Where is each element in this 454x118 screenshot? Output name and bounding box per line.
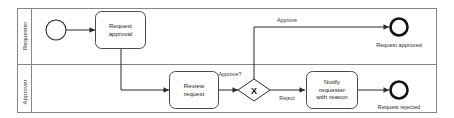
task-request-approval-label-line2: approval — [109, 30, 133, 37]
arrowhead — [300, 87, 306, 93]
pool-border — [18, 9, 437, 113]
gateway-exclusive-x-icon: X — [251, 86, 257, 96]
end-event-rejected-shape[interactable] — [391, 82, 408, 99]
end-event-approved-shape[interactable] — [391, 19, 408, 36]
bpmn-diagram: Requester Approver Approve Rejec — [0, 0, 454, 118]
end-event-rejected-label: Request rejected — [378, 104, 420, 110]
gateway-approve-label: Approve? — [218, 71, 241, 77]
flow-gateway-to-notify: Reject — [270, 87, 305, 101]
task-notify-requester-label-line2: requester — [319, 86, 345, 93]
arrowhead — [384, 24, 390, 30]
task-review-request-label-line1: Review — [184, 82, 205, 89]
flow-gateway-to-approved: Approve — [254, 17, 389, 79]
arrowhead — [384, 87, 390, 93]
flow-notify-to-rejected — [358, 87, 389, 93]
flow-request-approval-to-review-request — [121, 48, 169, 93]
gateway-approve[interactable]: X Approve? — [218, 71, 270, 101]
task-notify-requester-label-line1: Notify — [324, 78, 341, 85]
lane-label-requester: Requester — [22, 22, 28, 51]
task-review-request-label-line2: request — [184, 90, 205, 97]
arrowhead — [90, 27, 96, 33]
end-event-approved[interactable]: Request approved — [376, 19, 422, 49]
task-request-approval[interactable]: Request approval — [96, 12, 146, 49]
arrowhead — [164, 87, 170, 93]
start-event[interactable] — [46, 20, 66, 40]
end-event-rejected[interactable]: Request rejected — [378, 82, 420, 111]
task-review-request[interactable]: Review request — [170, 72, 219, 109]
task-request-approval-label-line1: Request — [109, 22, 132, 29]
task-notify-requester-label-line3: with reason — [315, 93, 348, 100]
flow-label-reject: Reject — [279, 95, 295, 101]
flow-label-approve: Approve — [277, 17, 297, 23]
lane-label-approver: Approver — [22, 79, 28, 104]
bpmn-diagram-canvas: Requester Approver Approve Rejec — [0, 0, 454, 118]
flow-review-request-to-gateway — [218, 87, 238, 93]
flow-start-to-request-approval — [66, 27, 95, 33]
task-notify-requester[interactable]: Notify requester with reason — [307, 72, 358, 109]
end-event-approved-label: Request approved — [376, 42, 422, 48]
